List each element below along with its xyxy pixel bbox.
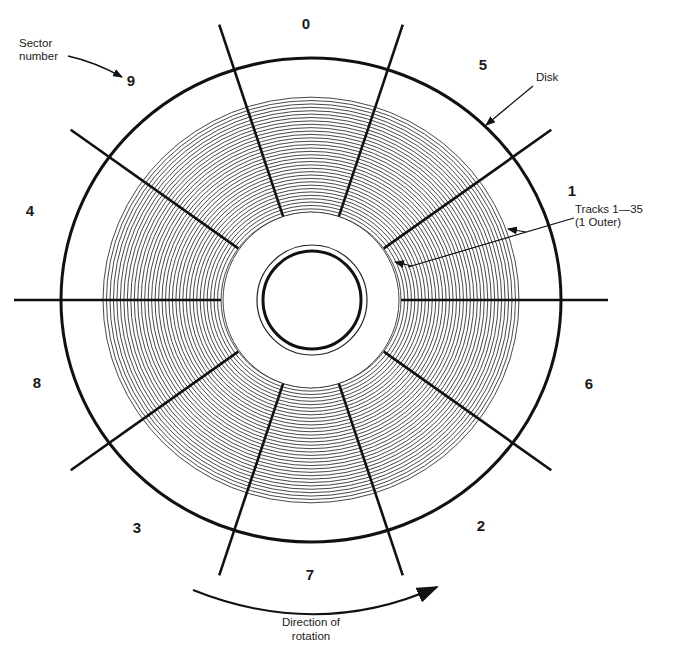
sector-boundary-line <box>339 383 403 575</box>
sector-label-1: 1 <box>568 182 576 199</box>
sector-label-9: 9 <box>127 72 135 89</box>
rotation-arrow-icon <box>193 587 437 614</box>
sector-boundary-line <box>339 25 403 217</box>
sector-number-label-line1: Sector <box>19 37 52 49</box>
sector-boundary-line <box>219 383 283 575</box>
sector-number-arrow-icon <box>68 56 122 77</box>
sector-label-7: 7 <box>306 566 314 583</box>
disk-arrow-icon <box>486 86 533 125</box>
tracks-sublabel: (1 Outer) <box>575 216 621 228</box>
sector-boundary-line <box>71 130 238 249</box>
sector-number-label-line2: number <box>19 50 58 62</box>
disk-sector-diagram: 0516273849 Sector number Disk Tracks 1—3… <box>0 0 676 655</box>
sector-boundary-line <box>71 352 238 471</box>
sector-label-0: 0 <box>302 15 310 32</box>
direction-label-line1: Direction of <box>282 616 341 628</box>
tracks-label: Tracks 1—35 <box>575 203 643 215</box>
sector-boundary-line <box>219 25 283 217</box>
disk-label: Disk <box>536 71 559 83</box>
sector-label-8: 8 <box>33 374 41 391</box>
sector-label-2: 2 <box>477 517 485 534</box>
sector-label-5: 5 <box>479 56 487 73</box>
track-outer-arrow-icon <box>508 229 526 232</box>
sector-boundary-line <box>384 352 551 471</box>
sector-label-4: 4 <box>26 202 35 219</box>
direction-label-line2: rotation <box>292 630 330 642</box>
sector-label-3: 3 <box>133 519 141 536</box>
hub-inner-ring <box>263 251 361 349</box>
sector-boundary-line <box>384 130 551 249</box>
sector-label-6: 6 <box>585 375 593 392</box>
